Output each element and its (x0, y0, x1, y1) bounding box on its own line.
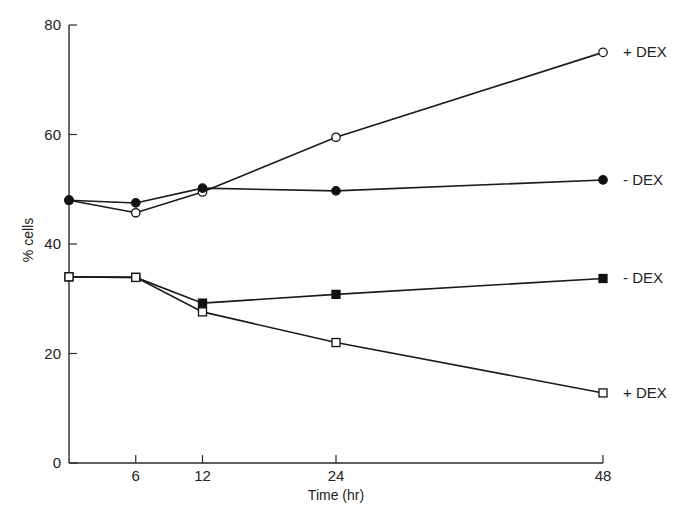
axes: 0204060806122448 (44, 16, 611, 484)
x-axis-label: Time (hr) (308, 487, 364, 503)
y-axis-label: % cells (20, 218, 36, 262)
data-point-circle (65, 196, 73, 204)
series-filled-circle: - DEX (65, 171, 663, 207)
data-point-square (599, 274, 607, 282)
series-end-label: - DEX (623, 171, 663, 188)
x-tick-label: 6 (132, 467, 140, 484)
x-tick-label: 12 (194, 467, 211, 484)
y-tick-label: 40 (44, 235, 61, 252)
x-tick-label: 24 (328, 467, 345, 484)
data-point-circle (132, 199, 140, 207)
x-tick-label: 48 (595, 467, 612, 484)
data-point-circle (599, 48, 607, 56)
data-point-circle (332, 133, 340, 141)
series-open-circle: + DEX (65, 43, 667, 217)
series-group: + DEX- DEX- DEX+ DEX (65, 43, 667, 401)
series-end-label: + DEX (623, 43, 667, 60)
data-point-square (332, 290, 340, 298)
data-point-circle (599, 176, 607, 184)
data-point-square (199, 308, 207, 316)
y-tick-label: 20 (44, 345, 61, 362)
y-tick-label: 80 (44, 16, 61, 33)
y-tick-label: 60 (44, 126, 61, 143)
data-point-circle (198, 184, 206, 192)
series-end-label: + DEX (623, 384, 667, 401)
line-chart: 0204060806122448 + DEX- DEX- DEX+ DEX Ti… (0, 0, 689, 515)
y-tick-label: 0 (53, 454, 61, 471)
series-filled-square: - DEX (65, 269, 663, 307)
data-point-square (332, 339, 340, 347)
data-point-circle (132, 209, 140, 217)
data-point-square (199, 299, 207, 307)
series-end-label: - DEX (623, 269, 663, 286)
data-point-square (599, 389, 607, 397)
data-point-square (132, 273, 140, 281)
data-point-square (65, 273, 73, 281)
data-point-circle (332, 187, 340, 195)
